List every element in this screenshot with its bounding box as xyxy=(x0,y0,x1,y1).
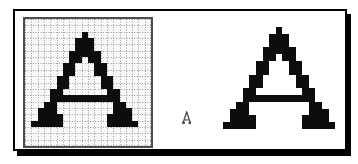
fatbits-grid xyxy=(23,17,153,148)
figure-frame xyxy=(13,9,347,151)
enlarged-glyph xyxy=(223,27,335,129)
bitmap-font-figure xyxy=(0,0,358,164)
actual-size-glyph xyxy=(182,111,191,124)
